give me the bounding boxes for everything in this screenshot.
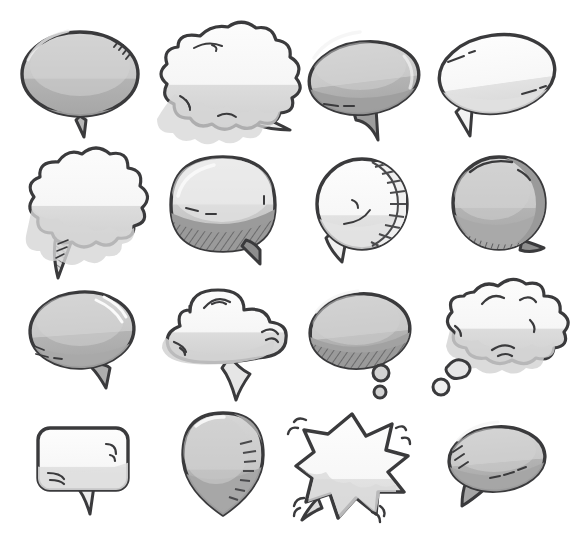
bubble-cell-3[interactable] [303, 36, 429, 144]
bubble-cell-16[interactable] [446, 426, 550, 504]
bubble-cell-6[interactable] [166, 152, 282, 268]
bubble-cell-5[interactable] [24, 150, 144, 276]
bubble-cell-11[interactable] [306, 292, 414, 400]
bubble-cell-1[interactable] [18, 26, 144, 142]
bubble-cell-9[interactable] [28, 290, 138, 388]
bubble-cell-14[interactable] [181, 411, 267, 517]
bubble-cell-13[interactable] [36, 426, 130, 516]
bubble-cell-15[interactable] [294, 412, 410, 520]
bubble-cell-12[interactable] [432, 286, 550, 398]
bubble-cell-4[interactable] [434, 28, 562, 142]
bubble-cell-10[interactable] [162, 286, 282, 390]
bubble-cell-7[interactable] [312, 156, 412, 266]
bubble-cell-8[interactable] [448, 154, 550, 264]
bubble-cell-2[interactable] [160, 26, 290, 144]
speech-bubble-sticker-sheet [0, 0, 572, 543]
